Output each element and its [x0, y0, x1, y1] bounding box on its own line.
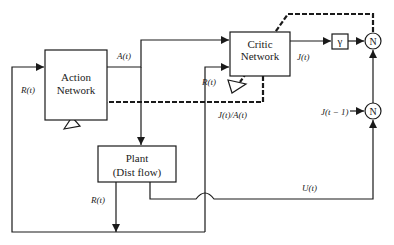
gamma-label: γ — [337, 35, 343, 47]
sum-bottom-label: N — [369, 106, 376, 117]
r-plant-label: R(t) — [90, 195, 105, 205]
critic-training-arrowhead — [228, 80, 246, 93]
u-label: U(t) — [302, 183, 317, 193]
j-label: J(t) — [297, 52, 310, 62]
critic-label-2: Network — [241, 50, 280, 62]
plant-label-1: Plant — [126, 152, 149, 164]
r-left-label: R(t) — [20, 85, 35, 95]
plant-label-2: (Dist flow) — [113, 166, 162, 179]
r-critic-line — [205, 67, 229, 232]
action-label-2: Network — [57, 84, 96, 96]
a-label: A(t) — [116, 51, 131, 61]
r-critic-label: R(t) — [201, 77, 216, 87]
dj-da-label: J(t)/A(t) — [218, 110, 247, 120]
sum-top-label: N — [369, 36, 376, 47]
block-diagram: Action Network Critic Network Plant (Dis… — [0, 0, 394, 245]
u-signal-line — [150, 120, 373, 199]
j-prev-label: J(t − 1) — [321, 107, 349, 117]
action-label-1: Action — [61, 71, 91, 83]
critic-label-1: Critic — [247, 38, 272, 50]
